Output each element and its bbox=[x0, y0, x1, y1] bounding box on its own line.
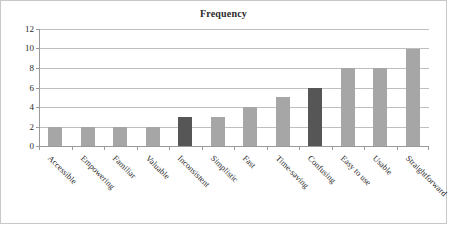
x-tick-cell bbox=[299, 146, 332, 150]
x-tick-cell bbox=[39, 146, 72, 150]
x-tick-label-text: Straightforward bbox=[404, 153, 449, 198]
bar[interactable] bbox=[48, 127, 62, 146]
bar[interactable] bbox=[373, 68, 387, 146]
x-tick-mark bbox=[72, 146, 73, 150]
x-tick-cell bbox=[72, 146, 105, 150]
x-tick-label: Fast bbox=[241, 153, 258, 170]
bar-slot bbox=[202, 29, 235, 146]
bar-slot bbox=[364, 29, 397, 146]
bar[interactable] bbox=[341, 68, 355, 146]
x-tick-label: Straightforward bbox=[404, 153, 449, 198]
bar-slot bbox=[397, 29, 430, 146]
bar[interactable] bbox=[178, 117, 192, 146]
x-label-cell: Accessible bbox=[39, 151, 72, 225]
y-tick-label: 2 bbox=[30, 122, 35, 132]
x-tick-label-text: Familiar bbox=[111, 153, 138, 180]
bar[interactable] bbox=[113, 127, 127, 146]
bar[interactable] bbox=[406, 49, 420, 147]
x-label-cell: Empowering bbox=[72, 151, 105, 225]
plot-area: 024681012 bbox=[39, 29, 429, 146]
x-tick-label: Valuable bbox=[144, 153, 172, 181]
x-tick-label-text: Valuable bbox=[144, 153, 172, 181]
x-tick-label-text: Fast bbox=[241, 153, 258, 170]
bar-slot bbox=[299, 29, 332, 146]
bar-slot bbox=[72, 29, 105, 146]
frequency-bar-chart: Frequency 024681012 AccessibleEmpowering… bbox=[0, 0, 447, 224]
x-label-cell: Usable bbox=[364, 151, 397, 225]
x-tick-mark bbox=[299, 146, 300, 150]
x-tick-cell bbox=[202, 146, 235, 150]
bar[interactable] bbox=[276, 97, 290, 146]
x-tick-mark bbox=[364, 146, 365, 150]
x-tick-mark bbox=[428, 146, 429, 150]
x-tick-mark bbox=[104, 146, 105, 150]
y-tick-label: 8 bbox=[30, 63, 35, 73]
x-tick-cell bbox=[364, 146, 397, 150]
x-axis-ticks bbox=[39, 146, 429, 150]
x-tick-mark bbox=[137, 146, 138, 150]
bar[interactable] bbox=[308, 88, 322, 147]
x-tick-mark bbox=[267, 146, 268, 150]
y-tick-label: 12 bbox=[25, 24, 34, 34]
y-tick-label: 0 bbox=[30, 141, 35, 151]
x-tick-label: Usable bbox=[371, 153, 395, 177]
x-tick-mark bbox=[397, 146, 398, 150]
x-label-cell: Confusing bbox=[299, 151, 332, 225]
y-tick-label: 6 bbox=[30, 83, 35, 93]
bar-slot bbox=[332, 29, 365, 146]
x-tick-label: Familiar bbox=[111, 153, 138, 180]
x-label-cell: Time-saving bbox=[267, 151, 300, 225]
x-tick-cell bbox=[397, 146, 430, 150]
bar-slot bbox=[169, 29, 202, 146]
x-tick-mark bbox=[234, 146, 235, 150]
x-label-cell: Fast bbox=[234, 151, 267, 225]
x-tick-mark bbox=[169, 146, 170, 150]
bar-slot bbox=[137, 29, 170, 146]
x-tick-mark bbox=[39, 146, 40, 150]
bar[interactable] bbox=[146, 127, 160, 146]
x-tick-cell bbox=[104, 146, 137, 150]
chart-title: Frequency bbox=[1, 8, 446, 19]
bar-slot bbox=[267, 29, 300, 146]
y-tick-label: 10 bbox=[25, 43, 34, 53]
bar-series bbox=[39, 29, 429, 146]
x-axis-labels: AccessibleEmpoweringFamiliarValuableInco… bbox=[39, 151, 429, 225]
x-tick-cell bbox=[234, 146, 267, 150]
bar[interactable] bbox=[81, 127, 95, 146]
x-tick-cell bbox=[267, 146, 300, 150]
x-label-cell: Straightforward bbox=[397, 151, 430, 225]
x-tick-cell bbox=[169, 146, 202, 150]
x-label-cell: Simplistic bbox=[202, 151, 235, 225]
x-label-cell: Valuable bbox=[137, 151, 170, 225]
x-tick-mark bbox=[332, 146, 333, 150]
x-tick-cell bbox=[137, 146, 170, 150]
bar-slot bbox=[104, 29, 137, 146]
x-label-cell: Inconsistent bbox=[169, 151, 202, 225]
x-tick-label-text: Usable bbox=[371, 153, 395, 177]
x-tick-cell bbox=[332, 146, 365, 150]
bar[interactable] bbox=[211, 117, 225, 146]
x-label-cell: Easy to use bbox=[332, 151, 365, 225]
bar-slot bbox=[234, 29, 267, 146]
y-tick-label: 4 bbox=[30, 102, 35, 112]
bar[interactable] bbox=[243, 107, 257, 146]
bar-slot bbox=[39, 29, 72, 146]
x-label-cell: Familiar bbox=[104, 151, 137, 225]
x-tick-mark bbox=[202, 146, 203, 150]
